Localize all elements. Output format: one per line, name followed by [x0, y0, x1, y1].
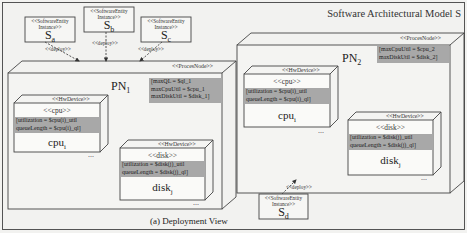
sd-name[interactable]: Sd: [259, 206, 308, 221]
pn2-disk-stereotype: <<HwDevice>>: [386, 114, 424, 120]
pn2-stereotype: <<ProcesNode>>: [400, 36, 441, 42]
pn1-cpu-kind: <<cpu>>: [14, 107, 100, 114]
pn1-disk-attributes: [utilization = $disk(j)_util queueLength…: [120, 161, 205, 177]
sc-name[interactable]: Sc: [141, 29, 191, 44]
pn1-stereotype: <<ProcesNode>>: [172, 64, 213, 70]
pn1-name[interactable]: PN1: [111, 80, 130, 95]
pn2-cpu-stereotype: <<HwDevice>>: [282, 68, 320, 74]
pn1-cpu-attributes: [utilization = $cpu(i)_util queueLength …: [14, 117, 100, 133]
pn2-disk-more: ...: [421, 174, 427, 182]
pn1-disk-more: ...: [193, 199, 199, 207]
sc-deploy-label: <<deploy>>: [138, 47, 164, 52]
pn2-disk-attributes: [utilization = $disk(j)_util queueLength…: [348, 134, 433, 150]
sd-deploy-label: <<deploy>>: [286, 185, 312, 190]
pn2-cpu-more: ...: [318, 127, 324, 135]
view-caption: (a) Deployment View: [150, 217, 228, 226]
sb-deploy-label: <<deploy>>: [92, 41, 118, 46]
pn1-cpu-stereotype: <<HwDevice>>: [52, 97, 90, 103]
pn1-cpu-more: ...: [88, 151, 94, 159]
pn1-attributes: [maxQL = $ql_1 maxCpuUtil = $cpu_1 maxDi…: [149, 78, 222, 103]
pn2-cpu-name[interactable]: cpui: [244, 110, 330, 124]
pn1-disk-kind: <<disk>>: [120, 152, 205, 159]
pn2-attributes: [maxCpuUtil = $cpu_2 maxDiskUtil = $disk…: [377, 46, 449, 63]
pn2-disk-kind: <<disk>>: [348, 124, 433, 131]
model-title: Software Architectural Model S: [327, 9, 461, 20]
sb-name[interactable]: Sb: [84, 19, 134, 34]
pn2-cpu-attributes: [utilization = $cpu(i)_util queueLength …: [244, 88, 330, 104]
pn2-cpu-kind: <<cpu>>: [244, 78, 330, 85]
pn1-disk-name[interactable]: diskj: [120, 182, 205, 196]
sa-deploy-label: <<deploy>>: [45, 47, 71, 52]
pn2-disk-name[interactable]: diskj: [348, 155, 433, 169]
sa-name[interactable]: Sa: [25, 29, 75, 44]
pn2-name[interactable]: PN2: [342, 52, 361, 67]
pn1-disk-stereotype: <<HwDevice>>: [158, 142, 196, 148]
